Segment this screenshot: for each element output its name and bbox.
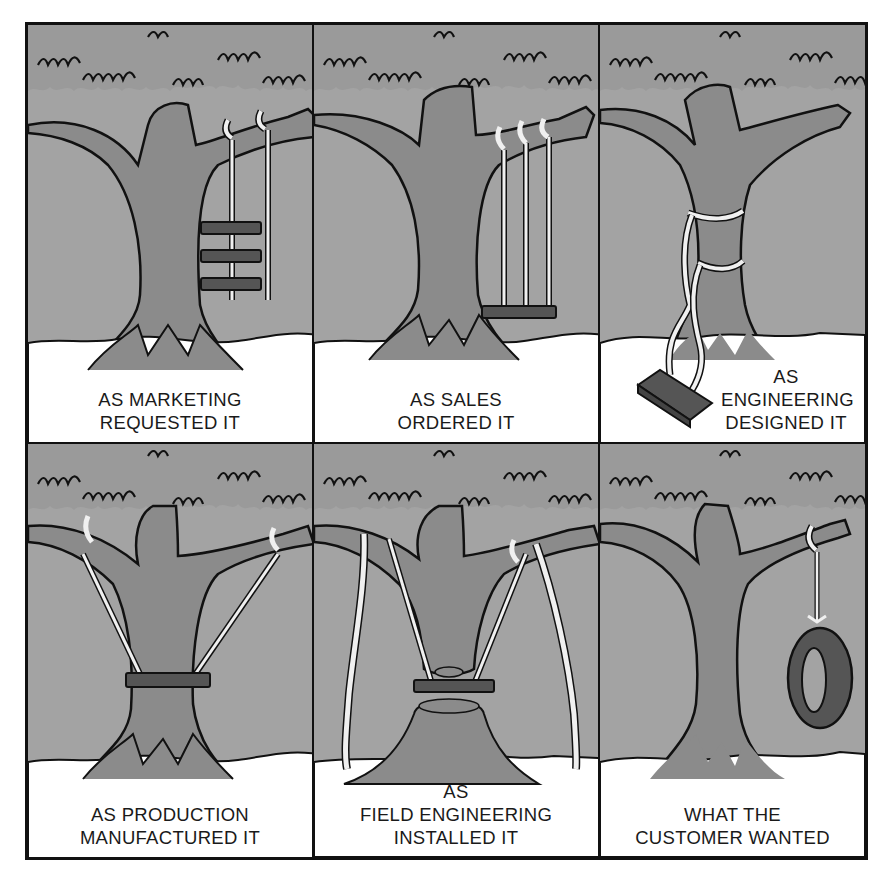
panel-caption: AS FIELD ENGINEERING INSTALLED IT <box>314 780 598 849</box>
panel-caption: AS PRODUCTION MANUFACTURED IT <box>28 803 312 849</box>
panel-marketing: AS MARKETING REQUESTED IT <box>28 25 314 444</box>
panel-customer: WHAT THE CUSTOMER WANTED <box>600 444 865 857</box>
panel-caption: AS MARKETING REQUESTED IT <box>28 388 312 434</box>
tree-swing-illustration <box>314 25 600 444</box>
comic-frame: AS MARKETING REQUESTED IT AS SALES ORDER… <box>25 22 868 860</box>
panel-caption: WHAT THE CUSTOMER WANTED <box>600 803 865 849</box>
panel-field-engineering: AS FIELD ENGINEERING INSTALLED IT <box>314 444 600 857</box>
panel-caption: AS SALES ORDERED IT <box>314 388 598 434</box>
tree-swing-illustration <box>28 444 314 857</box>
panel-caption: AS ENGINEERING DESIGNED IT <box>721 365 851 434</box>
panel-sales: AS SALES ORDERED IT <box>314 25 600 444</box>
panel-engineering: AS ENGINEERING DESIGNED IT <box>600 25 865 444</box>
tree-swing-illustration <box>600 444 865 857</box>
tree-swing-illustration <box>28 25 314 444</box>
panel-production: AS PRODUCTION MANUFACTURED IT <box>28 444 314 857</box>
